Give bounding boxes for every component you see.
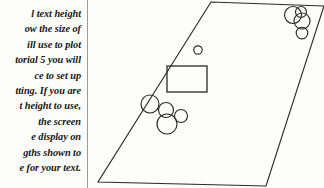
parallelogram-outline — [98, 2, 324, 186]
text-line: ce to set up — [0, 68, 81, 83]
diagram-panel — [88, 0, 324, 188]
circle-cluster-top-right — [285, 7, 311, 39]
diagram-svg — [88, 0, 324, 188]
text-line: the screen — [0, 114, 81, 129]
text-line: l text height — [0, 6, 81, 21]
text-line: ill use to plot — [0, 37, 81, 52]
text-line: torial 5 you will — [0, 52, 81, 67]
lone-small-circle — [194, 46, 202, 54]
cluster-circle — [141, 95, 159, 113]
text-line: t height to use, — [0, 98, 81, 113]
body-paragraph: l text height ow the size of ill use to … — [0, 6, 81, 175]
circle-cluster-bottom-left — [141, 95, 188, 134]
text-line: e display on — [0, 129, 81, 144]
text-line: tting. If you are — [0, 83, 81, 98]
text-line: ow the size of — [0, 21, 81, 36]
text-line: gths shown to — [0, 145, 81, 160]
text-line: e for your text. — [0, 160, 81, 175]
text-column: l text height ow the size of ill use to … — [0, 0, 84, 188]
scanned-page: l text height ow the size of ill use to … — [0, 0, 324, 188]
inner-rectangle — [167, 66, 207, 92]
cluster-circle — [285, 7, 302, 24]
